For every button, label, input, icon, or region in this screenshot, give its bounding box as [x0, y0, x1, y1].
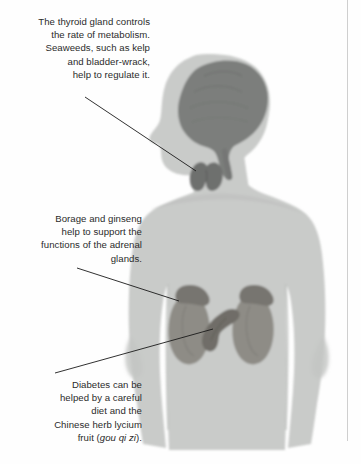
kidney-left-organ: [168, 296, 209, 365]
thyroid-caption: The thyroid gland controls the rate of m…: [0, 15, 150, 81]
diabetes-caption-italic-term: gou qi zi: [100, 432, 136, 443]
diagram-page: The thyroid gland controls the rate of m…: [0, 0, 361, 464]
adrenal-caption: Borage and ginseng help to support the f…: [0, 212, 142, 265]
diabetes-caption-tail: ).: [136, 432, 142, 443]
diabetes-caption: Diabetes can be helped by a careful diet…: [6, 378, 142, 444]
kidney-right-organ: [232, 296, 273, 365]
